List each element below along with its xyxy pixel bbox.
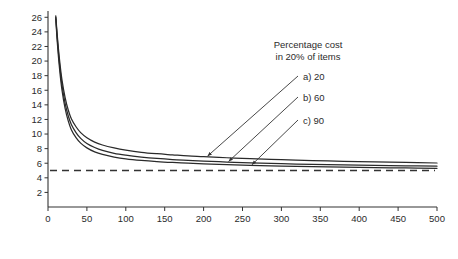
y-tick-label: 22 [31, 41, 42, 52]
y-tick-label: 4 [37, 172, 42, 183]
annotations [207, 76, 298, 165]
x-tick-label: 300 [273, 213, 289, 224]
line-chart: 2468101214161820222426050100150200250300… [0, 0, 458, 259]
y-tick-label: 14 [31, 99, 42, 110]
x-tick-label: 0 [45, 213, 50, 224]
x-tick-label: 500 [429, 213, 445, 224]
leader-line-0 [207, 76, 298, 156]
x-tick-label: 450 [390, 213, 406, 224]
x-tick-label: 400 [351, 213, 367, 224]
axes [45, 11, 438, 211]
legend-entry-a: a) 20 [303, 71, 325, 82]
x-tick-label: 50 [82, 213, 93, 224]
y-tick-label: 18 [31, 70, 42, 81]
y-tick-label: 12 [31, 114, 42, 125]
tick-labels: 2468101214161820222426050100150200250300… [31, 12, 445, 224]
y-tick-label: 8 [37, 143, 42, 154]
x-tick-label: 200 [196, 213, 212, 224]
chart-figure: 2468101214161820222426050100150200250300… [0, 0, 458, 259]
legend-title-line2: in 20% of items [276, 51, 341, 62]
x-tick-label: 150 [157, 213, 173, 224]
leader-line-2 [252, 120, 298, 165]
legend-title-line1: Percentage cost [274, 39, 343, 50]
y-tick-label: 16 [31, 85, 42, 96]
legend-entry-c: c) 90 [303, 115, 324, 126]
y-tick-label: 6 [37, 158, 42, 169]
y-tick-label: 2 [37, 187, 42, 198]
x-tick-label: 100 [118, 213, 134, 224]
x-tick-label: 250 [235, 213, 251, 224]
y-tick-label: 26 [31, 12, 42, 23]
series-line-a [56, 16, 437, 163]
legend-entry-b: b) 60 [303, 92, 325, 103]
y-tick-label: 10 [31, 128, 42, 139]
series-line-b [56, 17, 437, 166]
y-tick-label: 24 [31, 26, 42, 37]
y-tick-label: 20 [31, 55, 42, 66]
series-line-c [56, 19, 437, 169]
x-tick-label: 350 [312, 213, 328, 224]
